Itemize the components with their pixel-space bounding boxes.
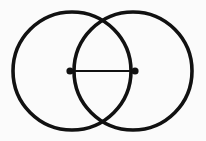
right-endpoint-dot <box>131 67 138 74</box>
left-endpoint-dot <box>66 67 73 74</box>
figure-canvas: Two overlapping circles (vesica piscis) … <box>0 0 206 141</box>
vesica-piscis-diagram: Two overlapping circles (vesica piscis) … <box>0 0 206 141</box>
